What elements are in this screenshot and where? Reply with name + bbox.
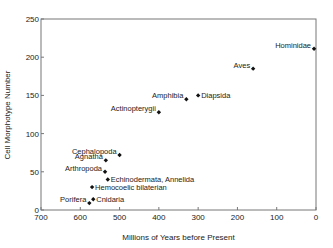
- data-point: Amphibia: [152, 91, 188, 101]
- point-label: Actinopterygii: [111, 104, 156, 113]
- x-tick-label: 100: [270, 213, 284, 222]
- y-tick-label: 250: [26, 15, 40, 24]
- x-axis-label: Millions of Years before Present: [122, 233, 235, 242]
- x-tick-label: 500: [113, 213, 127, 222]
- point-label: Porifera: [60, 195, 87, 204]
- point-label: Hominidae: [275, 41, 311, 50]
- data-point: Arthropoda: [65, 164, 107, 174]
- diamond-marker-icon: [90, 185, 94, 189]
- data-point: Cnidaria: [91, 195, 125, 204]
- data-point: Hemocoelic bilaterian: [90, 183, 167, 192]
- point-label: Aves: [234, 61, 251, 70]
- y-tick-label: 100: [26, 130, 40, 139]
- diamond-marker-icon: [104, 158, 108, 162]
- diamond-marker-icon: [251, 66, 255, 70]
- diamond-marker-icon: [184, 97, 188, 101]
- diamond-marker-icon: [87, 201, 91, 205]
- scatter-chart: 7006005004003002001000 050100150200250 H…: [0, 0, 333, 248]
- y-tick-label: 150: [26, 91, 40, 100]
- y-axis-label: Cell Morphotype Number: [3, 70, 12, 159]
- diamond-marker-icon: [103, 170, 107, 174]
- diamond-marker-icon: [117, 153, 121, 157]
- data-point: Diapsida: [196, 91, 231, 100]
- data-points: HominidaeAvesDiapsidaAmphibiaActinoptery…: [60, 41, 316, 206]
- y-tick-label: 0: [35, 206, 40, 215]
- diamond-marker-icon: [106, 177, 110, 181]
- point-label: Cnidaria: [96, 195, 125, 204]
- data-point: Aves: [234, 61, 256, 71]
- x-tick-label: 600: [74, 213, 88, 222]
- x-axis-ticks: 7006005004003002001000: [34, 207, 318, 222]
- x-tick-label: 400: [152, 213, 166, 222]
- x-tick-label: 200: [231, 213, 245, 222]
- y-tick-label: 200: [26, 53, 40, 62]
- point-label: Agnatha: [75, 152, 104, 161]
- y-tick-label: 50: [30, 168, 39, 177]
- point-label: Diapsida: [201, 91, 231, 100]
- point-label: Amphibia: [152, 91, 184, 100]
- data-point: Actinopterygii: [111, 104, 161, 114]
- data-point: Hominidae: [275, 41, 316, 51]
- data-point: Porifera: [60, 195, 91, 205]
- x-tick-label: 0: [314, 213, 319, 222]
- x-tick-label: 300: [191, 213, 205, 222]
- point-label: Hemocoelic bilaterian: [95, 183, 167, 192]
- diamond-marker-icon: [157, 110, 161, 114]
- point-label: Arthropoda: [65, 164, 103, 173]
- diamond-marker-icon: [91, 197, 95, 201]
- diamond-marker-icon: [196, 93, 200, 97]
